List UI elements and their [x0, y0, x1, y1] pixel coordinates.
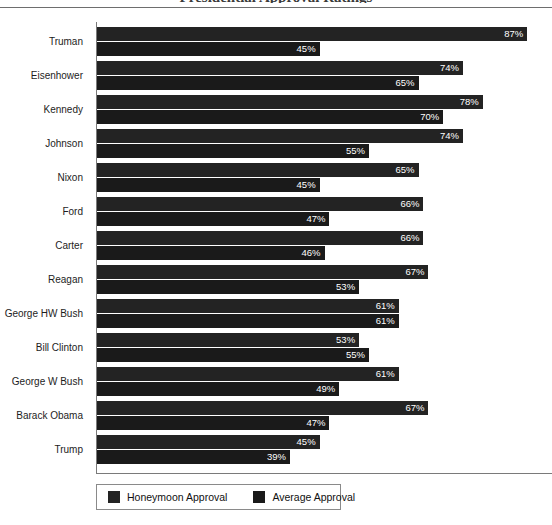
- bar-row: 53%: [97, 280, 552, 294]
- bar-value-label: 70%: [420, 110, 439, 124]
- bar-group: 74%65%: [97, 61, 552, 90]
- bar-value-label: 55%: [346, 144, 365, 158]
- bar-row: 67%: [97, 401, 552, 415]
- bar[interactable]: 47%: [97, 416, 329, 430]
- bar-row: 47%: [97, 212, 552, 226]
- bar-row: 53%: [97, 333, 552, 347]
- bar[interactable]: 49%: [97, 382, 339, 396]
- bar[interactable]: 53%: [97, 333, 359, 347]
- bar-value-label: 65%: [395, 163, 414, 177]
- category-label: Reagan: [0, 265, 90, 294]
- bar-value-label: 67%: [405, 401, 424, 415]
- bar-value-label: 66%: [400, 197, 419, 211]
- bar-row: 49%: [97, 382, 552, 396]
- bar[interactable]: 55%: [97, 144, 369, 158]
- bar-row: 46%: [97, 246, 552, 260]
- bar-value-label: 55%: [346, 348, 365, 362]
- bar-value-label: 53%: [336, 280, 355, 294]
- bar-group: 66%46%: [97, 231, 552, 260]
- bar-row: 65%: [97, 76, 552, 90]
- bar-group: 78%70%: [97, 95, 552, 124]
- bar-group: 66%47%: [97, 197, 552, 226]
- bar-row: 65%: [97, 163, 552, 177]
- bar-value-label: 45%: [297, 42, 316, 56]
- bar-group: 61%61%: [97, 299, 552, 328]
- bar-group: 67%47%: [97, 401, 552, 430]
- bar[interactable]: 66%: [97, 197, 423, 211]
- bar-value-label: 61%: [376, 314, 395, 328]
- bar-group: 74%55%: [97, 129, 552, 158]
- bar[interactable]: 39%: [97, 450, 290, 464]
- bar-value-label: 74%: [440, 61, 459, 75]
- bar-row: 61%: [97, 367, 552, 381]
- bar-value-label: 61%: [376, 367, 395, 381]
- bar[interactable]: 74%: [97, 61, 463, 75]
- bar[interactable]: 65%: [97, 163, 419, 177]
- legend-item[interactable]: Honeymoon Approval: [108, 491, 227, 503]
- bar[interactable]: 47%: [97, 212, 329, 226]
- bar-group: 65%45%: [97, 163, 552, 192]
- bar[interactable]: 45%: [97, 42, 320, 56]
- bar-value-label: 39%: [267, 450, 286, 464]
- bar[interactable]: 70%: [97, 110, 443, 124]
- category-label: George HW Bush: [0, 299, 90, 328]
- bar-value-label: 45%: [297, 178, 316, 192]
- bar[interactable]: 67%: [97, 401, 428, 415]
- category-label: Johnson: [0, 129, 90, 158]
- bar-value-label: 49%: [316, 382, 335, 396]
- category-label: Eisenhower: [0, 61, 90, 90]
- bar-row: 45%: [97, 42, 552, 56]
- bar[interactable]: 78%: [97, 95, 483, 109]
- bar-row: 45%: [97, 178, 552, 192]
- bar-group: 45%39%: [97, 435, 552, 464]
- bar[interactable]: 45%: [97, 178, 320, 192]
- bar-row: 47%: [97, 416, 552, 430]
- bar[interactable]: 61%: [97, 299, 399, 313]
- bar[interactable]: 45%: [97, 435, 320, 449]
- legend-swatch-icon: [253, 491, 265, 503]
- bar-row: 67%: [97, 265, 552, 279]
- category-label: Trump: [0, 435, 90, 464]
- bar-value-label: 78%: [460, 95, 479, 109]
- bar[interactable]: 65%: [97, 76, 419, 90]
- bar-row: 74%: [97, 61, 552, 75]
- bar-group: 61%49%: [97, 367, 552, 396]
- header-divider: [0, 7, 552, 8]
- bar-group: 53%55%: [97, 333, 552, 362]
- bar[interactable]: 74%: [97, 129, 463, 143]
- bar-value-label: 67%: [405, 265, 424, 279]
- bar-value-label: 53%: [336, 333, 355, 347]
- category-label: Truman: [0, 27, 90, 56]
- bar-row: 55%: [97, 144, 552, 158]
- bar-value-label: 74%: [440, 129, 459, 143]
- bar-row: 66%: [97, 197, 552, 211]
- bar-value-label: 87%: [504, 27, 523, 41]
- bar[interactable]: 46%: [97, 246, 325, 260]
- category-label: Nixon: [0, 163, 90, 192]
- category-axis-labels: TrumanEisenhowerKennedyJohnsonNixonFordC…: [0, 22, 90, 469]
- x-axis-line: [96, 473, 552, 474]
- legend-swatch-icon: [108, 491, 120, 503]
- bar-row: 87%: [97, 27, 552, 41]
- bar-groups: 87%45%74%65%78%70%74%55%65%45%66%47%66%4…: [97, 27, 552, 469]
- bar[interactable]: 66%: [97, 231, 423, 245]
- category-label: Ford: [0, 197, 90, 226]
- chart-legend: Honeymoon ApprovalAverage Approval: [96, 484, 341, 510]
- bar[interactable]: 87%: [97, 27, 527, 41]
- bar-value-label: 65%: [395, 76, 414, 90]
- category-label: George W Bush: [0, 367, 90, 396]
- bar[interactable]: 67%: [97, 265, 428, 279]
- bar-row: 78%: [97, 95, 552, 109]
- legend-item[interactable]: Average Approval: [253, 491, 355, 503]
- bar[interactable]: 61%: [97, 367, 399, 381]
- bar-value-label: 46%: [301, 246, 320, 260]
- bar-row: 61%: [97, 314, 552, 328]
- bar-row: 74%: [97, 129, 552, 143]
- bar[interactable]: 61%: [97, 314, 399, 328]
- bar-row: 39%: [97, 450, 552, 464]
- bar-row: 61%: [97, 299, 552, 313]
- bar[interactable]: 55%: [97, 348, 369, 362]
- bar-row: 70%: [97, 110, 552, 124]
- bar-row: 66%: [97, 231, 552, 245]
- bar[interactable]: 53%: [97, 280, 359, 294]
